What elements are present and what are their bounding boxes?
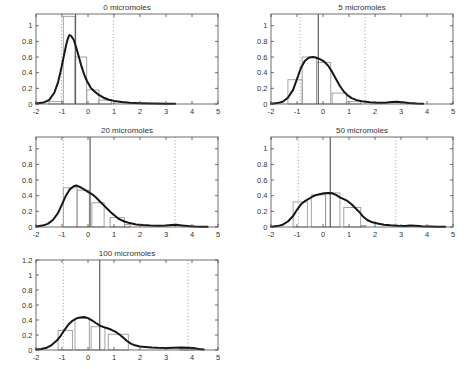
x-tick-label: 3: [399, 230, 403, 239]
x-tick-label: -1: [59, 107, 66, 116]
x-tick-label: 1: [347, 107, 351, 116]
chart-background: [0, 246, 234, 369]
chart-svg: -2-101234500.20.40.60.810 micromoles: [0, 0, 234, 123]
x-tick-label: 1: [347, 230, 351, 239]
y-tick-label: 0.8: [257, 160, 267, 169]
y-tick-label: 0.4: [22, 68, 32, 77]
y-tick-label: 0.8: [22, 160, 32, 169]
subplot-title: 5 micromoles: [338, 3, 386, 12]
chart-background: [0, 0, 234, 123]
subplot-title: 20 micromoles: [101, 126, 153, 135]
x-tick-label: 2: [138, 107, 142, 116]
x-tick-label: 0: [321, 230, 325, 239]
y-tick-label: 0.6: [22, 301, 32, 310]
y-tick-label: 0.2: [22, 84, 32, 93]
x-tick-label: 5: [216, 107, 220, 116]
chart-svg: -2-101234500.20.40.60.8150 micromoles: [235, 123, 469, 246]
x-tick-label: 2: [138, 353, 142, 362]
y-tick-label: 0.8: [22, 286, 32, 295]
x-tick-label: -2: [268, 107, 275, 116]
y-tick-label: 0.4: [22, 191, 32, 200]
x-tick-label: -2: [33, 107, 40, 116]
y-tick-label: 1: [28, 21, 32, 30]
x-tick-label: 5: [216, 353, 220, 362]
y-tick-label: 0.8: [22, 37, 32, 46]
y-tick-label: 0.6: [22, 176, 32, 185]
x-tick-label: 4: [425, 230, 429, 239]
y-tick-label: 1.2: [22, 256, 32, 265]
y-tick-label: 0: [263, 100, 267, 109]
x-tick-label: 4: [190, 230, 194, 239]
y-tick-label: 0.4: [22, 316, 32, 325]
x-tick-label: -2: [33, 230, 40, 239]
y-tick-label: 0.2: [257, 207, 267, 216]
x-tick-label: 3: [164, 353, 168, 362]
x-tick-label: 0: [321, 107, 325, 116]
x-tick-label: -1: [294, 107, 301, 116]
y-tick-label: 0.6: [257, 176, 267, 185]
subplot-50-micromoles: -2-101234500.20.40.60.8150 micromoles: [235, 123, 469, 246]
y-tick-label: 1: [28, 144, 32, 153]
x-tick-label: 1: [112, 353, 116, 362]
x-tick-label: 2: [138, 230, 142, 239]
x-tick-label: -1: [294, 230, 301, 239]
x-tick-label: 2: [373, 107, 377, 116]
y-tick-label: 0: [28, 223, 32, 232]
y-tick-label: 1: [263, 144, 267, 153]
x-tick-label: 3: [164, 230, 168, 239]
subplot-5-micromoles: -2-101234500.20.40.60.815 micromoles: [235, 0, 469, 123]
x-tick-label: -1: [59, 230, 66, 239]
subplot-20-micromoles: -2-101234500.20.40.60.8120 micromoles: [0, 123, 234, 246]
x-tick-label: 5: [451, 107, 455, 116]
chart-svg: -2-101234500.20.40.60.815 micromoles: [235, 0, 469, 123]
y-tick-label: 0.8: [257, 37, 267, 46]
y-tick-label: 0: [28, 346, 32, 355]
y-tick-label: 0.2: [22, 331, 32, 340]
x-tick-label: 4: [190, 353, 194, 362]
y-tick-label: 0.2: [257, 84, 267, 93]
x-tick-label: 3: [164, 107, 168, 116]
x-tick-label: 1: [112, 230, 116, 239]
y-tick-label: 0.2: [22, 207, 32, 216]
subplot-100-micromoles: -2-101234500.20.40.60.811.2100 micromole…: [0, 246, 234, 369]
x-tick-label: 4: [425, 107, 429, 116]
subplot-title: 0 micromoles: [103, 3, 151, 12]
x-tick-label: 0: [86, 230, 90, 239]
x-tick-label: -2: [268, 230, 275, 239]
y-tick-label: 0.4: [257, 191, 267, 200]
y-tick-label: 1: [263, 21, 267, 30]
y-tick-label: 0.4: [257, 68, 267, 77]
x-tick-label: -1: [59, 353, 66, 362]
x-tick-label: 5: [216, 230, 220, 239]
chart-svg: -2-101234500.20.40.60.811.2100 micromole…: [0, 246, 234, 369]
subplot-title: 100 micromoles: [99, 249, 155, 258]
x-tick-label: 1: [112, 107, 116, 116]
x-tick-label: 4: [190, 107, 194, 116]
x-tick-label: -2: [33, 353, 40, 362]
x-tick-label: 0: [86, 107, 90, 116]
y-tick-label: 0.6: [22, 53, 32, 62]
subplot-title: 50 micromoles: [336, 126, 388, 135]
figure-canvas: -2-101234500.20.40.60.810 micromoles -2-…: [0, 0, 469, 369]
y-tick-label: 0: [28, 100, 32, 109]
x-tick-label: 2: [373, 230, 377, 239]
y-tick-label: 0.6: [257, 53, 267, 62]
x-tick-label: 3: [399, 107, 403, 116]
y-tick-label: 1: [28, 271, 32, 280]
chart-background: [235, 0, 469, 123]
subplot-0-micromoles: -2-101234500.20.40.60.810 micromoles: [0, 0, 234, 123]
x-tick-label: 5: [451, 230, 455, 239]
chart-svg: -2-101234500.20.40.60.8120 micromoles: [0, 123, 234, 246]
x-tick-label: 0: [86, 353, 90, 362]
y-tick-label: 0: [263, 223, 267, 232]
